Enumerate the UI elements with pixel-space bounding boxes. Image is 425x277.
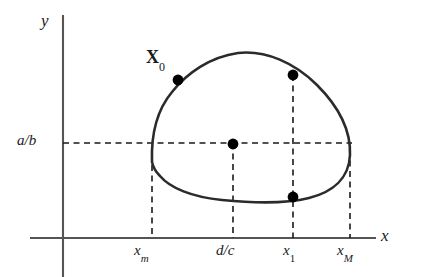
phase-plane-canvas bbox=[0, 0, 425, 277]
phase-plane-figure: y x a/b xm d/c x1 xM X0 bbox=[0, 0, 425, 277]
y-axis-label: y bbox=[41, 12, 49, 29]
annotation-initial-point-sub: 0 bbox=[159, 60, 165, 74]
tick-label-xM-base: x bbox=[337, 242, 344, 258]
marked-point-x0 bbox=[173, 75, 184, 86]
marked-point-equilibrium bbox=[228, 139, 239, 150]
x-axis-label: x bbox=[381, 227, 389, 244]
tick-label-ab: a/b bbox=[17, 133, 36, 148]
annotation-initial-point-base: X bbox=[146, 47, 159, 67]
tick-label-xM: xM bbox=[337, 243, 353, 261]
orbit-curve bbox=[152, 53, 350, 203]
tick-label-xm: xm bbox=[134, 243, 149, 261]
tick-label-xm-sub: m bbox=[141, 252, 149, 264]
tick-label-dc: d/c bbox=[216, 243, 234, 258]
tick-label-x1-base: x bbox=[283, 242, 290, 258]
annotation-initial-point: X0 bbox=[146, 48, 165, 70]
tick-label-x1-sub: 1 bbox=[290, 252, 296, 264]
tick-label-xM-sub: M bbox=[344, 252, 353, 264]
marked-point-bottom-right bbox=[288, 192, 299, 203]
marked-point-top-right bbox=[288, 70, 299, 81]
tick-label-x1: x1 bbox=[283, 243, 295, 261]
tick-label-xm-base: x bbox=[134, 242, 141, 258]
